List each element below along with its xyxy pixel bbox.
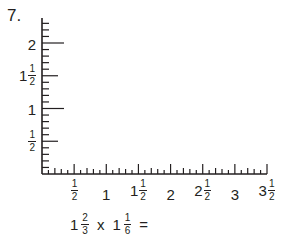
label-whole: 2 [166,186,174,203]
x-axis-tick-label: 312 [259,179,276,202]
multiplication-equation: 1 2 3 x 1 1 6 = [70,213,154,236]
label-fraction: 12 [268,179,276,202]
coordinate-axes [0,0,286,242]
label-fraction: 12 [204,179,212,202]
factor-a-denominator: 3 [82,225,88,236]
y-axis-tick-label: 1 [28,100,36,117]
factor-a-whole: 1 [70,216,78,233]
x-axis-tick-label: 1 [102,185,110,202]
multiplication-area-model-problem: 7. 12111222123312 1211122 1 2 3 x 1 1 6 … [0,0,286,242]
x-axis-tick-label: 3 [231,185,239,202]
times-operator: x [97,216,105,233]
x-axis-tick-label: 112 [130,179,147,202]
equals-sign: = [139,216,148,233]
label-fraction: 12 [71,179,79,202]
y-axis-tick-label: 12 [27,130,36,153]
label-whole: 1 [130,182,138,199]
label-whole: 1 [28,101,36,118]
factor-b-whole: 1 [112,216,120,233]
factor-b-numerator: 1 [124,213,132,225]
y-axis-tick-label: 112 [19,64,36,87]
label-fraction: 12 [28,130,36,153]
factor-a-numerator: 2 [81,213,89,225]
x-axis-tick-label: 2 [166,185,174,202]
label-fraction: 12 [139,179,147,202]
label-whole: 2 [28,35,36,52]
label-whole: 1 [102,186,110,203]
y-axis-tick-label: 2 [28,35,36,52]
label-whole: 2 [194,182,202,199]
x-axis-tick-label: 212 [194,179,211,202]
factor-b-denominator: 6 [125,225,131,236]
axis-ticks [42,23,267,174]
factor-a-fraction: 2 3 [81,213,89,236]
label-whole: 1 [19,67,27,84]
x-axis-tick-label: 12 [70,179,79,202]
label-whole: 3 [259,182,267,199]
factor-b-fraction: 1 6 [124,213,132,236]
label-whole: 3 [231,186,239,203]
label-fraction: 12 [28,64,36,87]
